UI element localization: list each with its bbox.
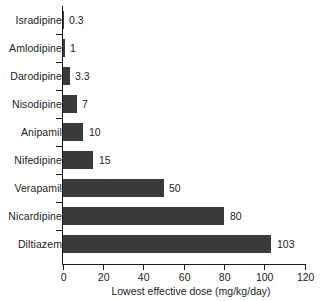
x-axis-tick-label: 0 (61, 271, 67, 283)
bar-anipamil (63, 123, 83, 141)
y-axis-tick (56, 90, 62, 91)
bar-darodipine (63, 67, 70, 85)
category-label: Anipamil (0, 126, 62, 138)
category-label: Amlodipine (0, 42, 62, 54)
bar-value-label: 103 (277, 238, 295, 250)
x-axis-tick (184, 265, 185, 270)
x-axis-tick (143, 265, 144, 270)
x-axis-tick-label: 100 (256, 271, 274, 283)
y-axis-tick (56, 62, 62, 63)
bar-nicardipine (63, 207, 224, 225)
bar-value-label: 1 (70, 42, 76, 54)
y-axis-tick (56, 174, 62, 175)
bar-chart: Isradipine 0.3 Amlodipine 1 Darodipine 3… (0, 0, 320, 301)
x-axis-tick (63, 265, 64, 270)
y-axis-tick (56, 34, 62, 35)
bar-diltiazem (63, 235, 271, 253)
bar-value-label: 15 (99, 154, 111, 166)
y-axis-tick (56, 230, 62, 231)
x-axis-tick-label: 120 (297, 271, 315, 283)
x-axis-title: Lowest effective dose (mg/kg/day) (0, 285, 320, 297)
category-label: Darodipine (0, 70, 62, 82)
bar-value-label: 10 (89, 126, 101, 138)
x-axis-tick (305, 265, 306, 270)
bar-verapamil (63, 179, 164, 197)
x-axis-tick-label: 40 (138, 271, 150, 283)
category-label: Diltiazem (0, 238, 62, 250)
bar-nisodipine (63, 95, 77, 113)
y-axis-tick (56, 118, 62, 119)
bar-value-label: 0.3 (69, 14, 84, 26)
x-axis-tick (224, 265, 225, 270)
bar-nifedipine (63, 151, 93, 169)
category-label: Isradipine (0, 14, 62, 26)
bar-value-label: 80 (230, 210, 242, 222)
category-label: Verapamil (0, 182, 62, 194)
x-axis-tick (103, 265, 104, 270)
y-axis-tick (56, 202, 62, 203)
x-axis-tick-label: 20 (98, 271, 110, 283)
bar-value-label: 50 (169, 182, 181, 194)
bar-value-label: 3.3 (75, 70, 90, 82)
x-axis-tick-label: 60 (179, 271, 191, 283)
bar-amlodipine (63, 39, 65, 57)
x-axis-tick-label: 80 (219, 271, 231, 283)
category-label: Nifedipine (0, 154, 62, 166)
bar-isradipine (63, 11, 64, 29)
category-label: Nisodipine (0, 98, 62, 110)
x-axis-tick (264, 265, 265, 270)
category-label: Nicardipine (0, 210, 62, 222)
bar-value-label: 7 (82, 98, 88, 110)
y-axis-tick (56, 146, 62, 147)
